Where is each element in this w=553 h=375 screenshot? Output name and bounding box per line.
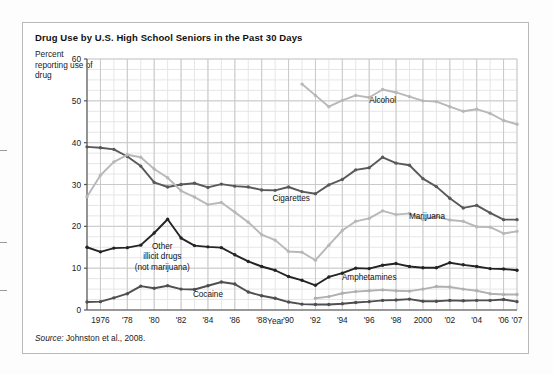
data-point xyxy=(206,203,209,206)
data-point xyxy=(247,260,250,263)
data-point xyxy=(515,218,518,221)
data-point xyxy=(367,289,370,292)
data-point xyxy=(260,233,263,236)
data-point xyxy=(394,213,397,216)
data-point xyxy=(421,99,424,102)
data-point xyxy=(314,259,317,262)
data-point xyxy=(435,185,438,188)
data-point xyxy=(354,290,357,293)
series-label: Alcohol xyxy=(369,96,396,105)
line-chart-plot: 0102030405060 1976'78'80'82'84'86'88'90'… xyxy=(23,23,528,353)
data-point xyxy=(152,231,155,234)
data-point xyxy=(462,299,465,302)
series-label: Marijuana xyxy=(409,212,445,221)
data-point xyxy=(260,294,263,297)
source-text: Johnston et al., 2008. xyxy=(64,333,146,343)
data-point xyxy=(260,265,263,268)
data-point xyxy=(260,188,263,191)
data-point xyxy=(314,284,317,287)
data-point xyxy=(515,230,518,233)
data-point xyxy=(126,292,129,295)
data-point xyxy=(341,292,344,295)
svg-text:20: 20 xyxy=(72,221,82,231)
data-point xyxy=(139,164,142,167)
data-point xyxy=(327,183,330,186)
data-point xyxy=(152,181,155,184)
figure-container: Drug Use by U.S. High School Seniors in … xyxy=(22,22,529,354)
data-point xyxy=(515,269,518,272)
data-point xyxy=(421,266,424,269)
data-point xyxy=(475,225,478,228)
data-point xyxy=(287,300,290,303)
data-point xyxy=(314,192,317,195)
series-label: Otherillicit drugs(not marijuana) xyxy=(135,242,190,272)
data-point xyxy=(394,91,397,94)
page-edge-mark-bottom xyxy=(0,290,7,291)
data-point xyxy=(112,296,115,299)
data-point xyxy=(421,177,424,180)
data-point xyxy=(206,186,209,189)
data-point xyxy=(179,183,182,186)
svg-text:30: 30 xyxy=(72,180,82,190)
data-point xyxy=(247,185,250,188)
data-point xyxy=(166,176,169,179)
data-point xyxy=(287,250,290,253)
data-point xyxy=(394,262,397,265)
data-point xyxy=(488,211,491,214)
data-point xyxy=(502,119,505,122)
data-point xyxy=(327,295,330,298)
data-point xyxy=(314,297,317,300)
data-point xyxy=(99,250,102,253)
data-point xyxy=(435,266,438,269)
data-point xyxy=(367,267,370,270)
data-point xyxy=(354,168,357,171)
data-point xyxy=(408,164,411,167)
data-point xyxy=(139,284,142,287)
data-point xyxy=(85,300,88,303)
source-note: Source: Johnston et al., 2008. xyxy=(35,333,145,343)
data-point xyxy=(166,185,169,188)
series-label: Cigarettes xyxy=(273,194,310,203)
data-point xyxy=(408,265,411,268)
data-point xyxy=(287,275,290,278)
data-point xyxy=(85,195,88,198)
data-point xyxy=(179,236,182,239)
data-point xyxy=(488,267,491,270)
data-point xyxy=(112,246,115,249)
data-point xyxy=(502,218,505,221)
data-point xyxy=(341,229,344,232)
svg-text:0: 0 xyxy=(76,305,81,315)
data-point xyxy=(300,82,303,85)
data-point xyxy=(341,99,344,102)
data-point xyxy=(462,263,465,266)
data-point xyxy=(435,300,438,303)
data-point xyxy=(314,303,317,306)
data-point xyxy=(354,301,357,304)
data-point xyxy=(502,293,505,296)
series-label: Amphetamines xyxy=(342,273,397,282)
data-point xyxy=(394,161,397,164)
data-point xyxy=(300,251,303,254)
data-point xyxy=(515,123,518,126)
figure-page: Drug Use by U.S. High School Seniors in … xyxy=(0,0,553,375)
data-point xyxy=(421,300,424,303)
data-point xyxy=(381,264,384,267)
data-point xyxy=(502,267,505,270)
data-point xyxy=(435,100,438,103)
data-point xyxy=(206,284,209,287)
data-point xyxy=(408,289,411,292)
data-point xyxy=(448,218,451,221)
series-label: Cocaine xyxy=(193,290,223,299)
data-point xyxy=(381,209,384,212)
data-point xyxy=(220,201,223,204)
data-point xyxy=(220,280,223,283)
data-point xyxy=(462,287,465,290)
data-point xyxy=(300,279,303,282)
data-point xyxy=(233,184,236,187)
data-point xyxy=(448,299,451,302)
svg-text:10: 10 xyxy=(72,263,82,273)
data-point xyxy=(193,195,196,198)
data-point xyxy=(273,238,276,241)
data-point xyxy=(435,285,438,288)
page-edge-mark-mid xyxy=(0,242,7,243)
